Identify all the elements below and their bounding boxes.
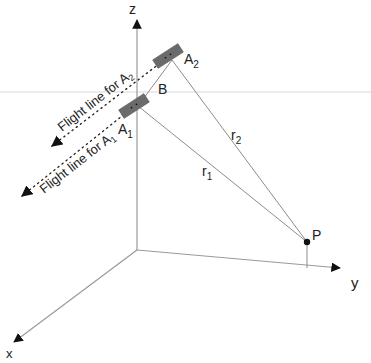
flight-lines [22,57,168,196]
x-axis [14,250,137,342]
flight-line-a1-label: Flight line for A1 [37,129,119,198]
z-axis-label: z [129,1,136,17]
p-label: P [312,227,321,243]
point-p [304,239,310,245]
r1-label: r1 [202,163,213,182]
x-axis-label: x [6,346,13,361]
b-label: B [158,81,167,97]
range-r2 [172,60,307,242]
a1-label: A1 [118,121,133,140]
y-axis-label: y [351,274,359,291]
sensor-a1 [119,94,150,119]
y-axis [137,250,340,268]
a2-label: A2 [184,51,199,70]
interferometry-geometry-diagram: z y x Flight line for A2 Flight line for… [0,0,371,363]
range-r1 [138,106,307,242]
r2-label: r2 [231,127,242,146]
flight-line-a2 [52,57,168,146]
